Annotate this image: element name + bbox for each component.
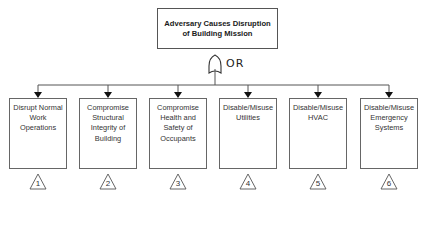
transfer-ref: 3 — [169, 179, 187, 188]
transfer-triangle-3: 3 — [169, 173, 187, 190]
child-event-box-6: Disable/Misuse Emergency Systems — [360, 98, 418, 169]
transfer-triangle-5: 5 — [309, 173, 327, 190]
child-event-label: Disable/Misuse HVAC — [290, 103, 346, 123]
transfer-triangle-6: 6 — [380, 173, 398, 190]
transfer-ref: 2 — [99, 179, 117, 188]
transfer-triangle-4: 4 — [239, 173, 257, 190]
transfer-triangle-1: 1 — [29, 173, 47, 190]
child-event-label: Compromise Health and Safety of Occupant… — [150, 103, 206, 144]
child-event-box-2: Compromise Structural Integrity of Build… — [79, 98, 137, 169]
child-event-box-5: Disable/Misuse HVAC — [289, 98, 347, 169]
child-event-label: Disable/Misuse Emergency Systems — [361, 103, 417, 134]
transfer-ref: 1 — [29, 179, 47, 188]
child-event-box-1: Disrupt Normal Work Operations — [9, 98, 67, 169]
transfer-ref: 4 — [239, 179, 257, 188]
child-event-box-3: Compromise Health and Safety of Occupant… — [149, 98, 207, 169]
child-event-box-4: Disable/Misuse Utilities — [219, 98, 277, 169]
transfer-ref: 5 — [309, 179, 327, 188]
transfer-triangle-2: 2 — [99, 173, 117, 190]
or-gate-label: OR — [226, 57, 244, 70]
child-event-label: Disrupt Normal Work Operations — [10, 103, 66, 134]
child-event-label: Disable/Misuse Utilities — [220, 103, 276, 123]
transfer-ref: 6 — [380, 179, 398, 188]
child-event-label: Compromise Structural Integrity of Build… — [80, 103, 136, 144]
